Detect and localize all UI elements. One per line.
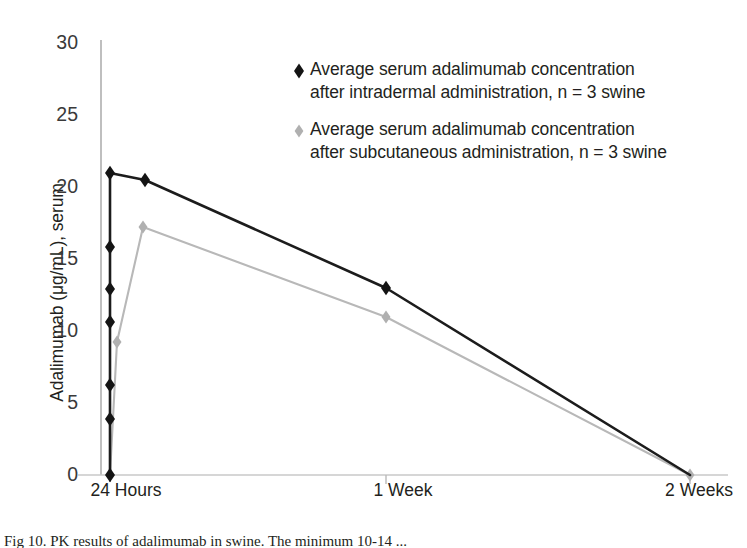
- legend-entry-subcutaneous: Average serum adalimumab concentration a…: [288, 118, 728, 165]
- data-point-marker: [113, 336, 122, 349]
- data-point-marker: [105, 240, 115, 254]
- pk-line-chart-figure: Adalimumab (μg/mL), serum 0 5 10 15 20 2…: [0, 0, 747, 548]
- data-point-marker: [382, 311, 391, 324]
- legend-label-intradermal: Average serum adalimumab concentration a…: [310, 58, 645, 105]
- data-point-marker: [105, 315, 115, 329]
- legend-label-subcutaneous-line2: after subcutaneous administration, n = 3…: [310, 142, 667, 162]
- legend-label-intradermal-line2: after intradermal administration, n = 3 …: [310, 82, 645, 102]
- figure-caption-clipped: Fig 10. PK results of adalimumab in swin…: [4, 533, 744, 548]
- data-point-marker: [105, 166, 115, 180]
- legend-label-intradermal-line1: Average serum adalimumab concentration: [310, 59, 635, 79]
- series-subcutaneous-line: [110, 227, 690, 475]
- series-subcutaneous: [110, 221, 695, 482]
- legend-label-subcutaneous: Average serum adalimumab concentration a…: [310, 118, 667, 165]
- black-diamond-marker-icon: [288, 58, 310, 80]
- legend-label-subcutaneous-line1: Average serum adalimumab concentration: [310, 119, 635, 139]
- chart-legend: Average serum adalimumab concentration a…: [288, 58, 728, 177]
- data-point-marker: [139, 221, 148, 234]
- gray-diamond-marker-icon: [288, 118, 310, 140]
- data-point-marker: [381, 281, 391, 295]
- legend-entry-intradermal: Average serum adalimumab concentration a…: [288, 58, 728, 105]
- data-point-marker: [105, 468, 115, 482]
- data-point-marker: [140, 173, 150, 187]
- data-point-marker: [105, 282, 115, 296]
